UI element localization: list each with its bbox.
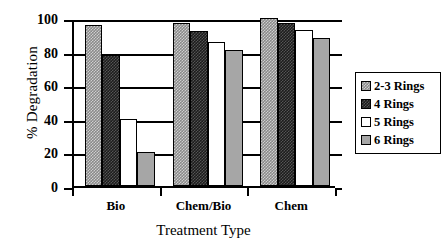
x-axis-title: Treatment Type [72,222,335,239]
bar [190,31,208,186]
bar [137,152,155,186]
legend-item: 6 Rings [361,131,436,149]
plot-area [72,20,335,188]
y-tick-label: 20 [18,146,58,162]
legend-swatch-icon [361,135,371,145]
y-tick-label: 80 [18,46,58,62]
y-tick-label: 0 [18,180,58,196]
y-tick-mark [64,54,72,56]
x-category-label: Chem/Bio [176,198,232,214]
bar [313,38,331,186]
legend-swatch-icon [361,81,371,91]
legend-label: 5 Rings [374,116,414,129]
legend-label: 2-3 Rings [374,80,424,93]
right-tick-mark [335,54,342,56]
right-tick-mark [335,20,342,22]
y-tick-mark [64,121,72,123]
y-tick-mark [64,87,72,89]
y-tick-mark [64,188,72,190]
right-tick-mark [335,121,342,123]
bar [260,18,278,186]
bar [120,119,138,186]
y-tick-label: 100 [18,12,58,28]
legend-item: 2-3 Rings [361,77,436,95]
bar [173,23,191,186]
x-category-label: Chem [275,198,308,214]
legend-swatch-icon [361,99,371,109]
y-tick-mark [64,20,72,22]
y-tick-label: 60 [18,79,58,95]
y-tick-label: 40 [18,113,58,129]
legend-label: 6 Rings [374,134,414,147]
bar [208,42,226,186]
y-tick-mark [64,154,72,156]
right-tick-mark [335,154,342,156]
legend-item: 5 Rings [361,113,436,131]
bar [102,55,120,186]
legend-label: 4 Rings [374,98,414,111]
bar [225,50,243,186]
bar [295,30,313,186]
x-tick-mark [335,188,337,196]
bar [85,25,103,186]
right-tick-mark [335,87,342,89]
legend-item: 4 Rings [361,95,436,113]
bar-series-container [74,20,335,186]
x-category-label: Bio [106,198,125,214]
legend-swatch-icon [361,117,371,127]
chart-figure: % Degradation 020406080100 BioChem/BioCh… [0,0,446,250]
x-tick-mark [72,188,74,196]
x-tick-mark [247,188,249,196]
legend: 2-3 Rings4 Rings5 Rings6 Rings [355,72,441,154]
x-tick-mark [160,188,162,196]
bar [278,23,296,186]
